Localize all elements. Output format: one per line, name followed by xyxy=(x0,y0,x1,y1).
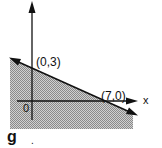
x-intercept-label: (7,0) xyxy=(101,89,126,103)
figure-label: g xyxy=(7,128,17,146)
origin-label: 0 xyxy=(23,102,29,114)
x-axis-label: x xyxy=(143,94,149,106)
inequality-graph xyxy=(0,0,162,148)
x-axis-arrow-icon xyxy=(126,98,138,105)
footnote-mark: . xyxy=(31,135,34,146)
y-axis-arrow-icon xyxy=(29,1,36,13)
y-intercept-label: (0,3) xyxy=(36,55,61,69)
